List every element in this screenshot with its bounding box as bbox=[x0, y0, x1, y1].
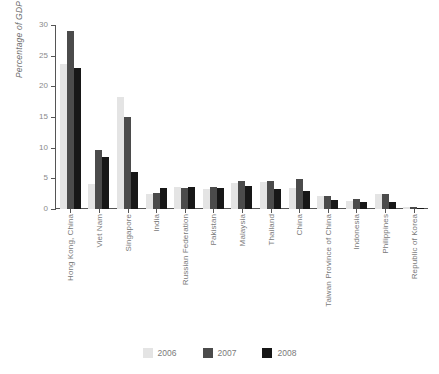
bar-group bbox=[199, 25, 228, 209]
legend-item[interactable]: 2008 bbox=[262, 348, 296, 358]
bar-group bbox=[113, 25, 142, 209]
bar bbox=[188, 187, 195, 209]
legend-item[interactable]: 2006 bbox=[143, 348, 177, 358]
legend-label: 2007 bbox=[218, 348, 237, 358]
y-tick-label: 10 bbox=[39, 143, 48, 152]
bar-group bbox=[256, 25, 285, 209]
bar bbox=[360, 202, 367, 209]
bar bbox=[289, 188, 296, 209]
bar-group bbox=[342, 25, 371, 209]
legend-swatch-icon bbox=[203, 348, 213, 358]
bar-groups bbox=[56, 25, 428, 209]
bar bbox=[267, 181, 274, 209]
y-tick-label: 15 bbox=[39, 112, 48, 121]
bar-group bbox=[371, 25, 400, 209]
bar bbox=[95, 150, 102, 209]
x-label-cell: China bbox=[285, 214, 314, 324]
x-label-cell: Philippines bbox=[371, 214, 400, 324]
x-label-cell: Thailand bbox=[256, 214, 285, 324]
bar bbox=[146, 194, 153, 209]
x-tick bbox=[299, 209, 300, 213]
plot-area: 051015202530 bbox=[56, 25, 428, 209]
x-label-cell: Malaysia bbox=[228, 214, 257, 324]
bar bbox=[67, 31, 74, 209]
bar bbox=[124, 117, 131, 209]
x-axis-labels: Hong Kong, ChinaViet NamSingaporeIndiaRu… bbox=[56, 214, 428, 324]
bar bbox=[375, 194, 382, 209]
x-tick bbox=[414, 209, 415, 213]
legend-swatch-icon bbox=[262, 348, 272, 358]
bar bbox=[382, 194, 389, 209]
bar bbox=[210, 187, 217, 209]
bar-group bbox=[142, 25, 171, 209]
bar bbox=[296, 179, 303, 209]
bar-group bbox=[285, 25, 314, 209]
x-label-cell: India bbox=[142, 214, 171, 324]
x-axis-label: China bbox=[295, 214, 304, 235]
x-axis-label: Russian Federation bbox=[180, 214, 189, 285]
x-tick bbox=[213, 209, 214, 213]
bar bbox=[403, 207, 410, 209]
x-label-cell: Singapore bbox=[113, 214, 142, 324]
bar bbox=[88, 184, 95, 209]
y-tick-label: 25 bbox=[39, 51, 48, 60]
x-label-cell: Republic of Korea bbox=[399, 214, 428, 324]
y-tick-label: 5 bbox=[44, 173, 48, 182]
x-axis-label: India bbox=[152, 214, 161, 232]
bar bbox=[331, 200, 338, 209]
bar-group bbox=[85, 25, 114, 209]
bar bbox=[60, 64, 67, 209]
bar-group bbox=[228, 25, 257, 209]
x-axis-label: Singapore bbox=[123, 214, 132, 251]
bar bbox=[174, 187, 181, 209]
x-tick bbox=[185, 209, 186, 213]
bar bbox=[102, 157, 109, 209]
legend-swatch-icon bbox=[143, 348, 153, 358]
x-label-cell: Indonesia bbox=[342, 214, 371, 324]
bar-group bbox=[313, 25, 342, 209]
x-tick bbox=[156, 209, 157, 213]
x-axis-label: Viet Nam bbox=[94, 214, 103, 248]
x-axis-label: Hong Kong, China bbox=[66, 214, 75, 281]
bar bbox=[238, 181, 245, 209]
y-tick-label: 0 bbox=[44, 204, 48, 213]
legend-item[interactable]: 2007 bbox=[203, 348, 237, 358]
y-tick-label: 20 bbox=[39, 81, 48, 90]
x-label-cell: Pakistan bbox=[199, 214, 228, 324]
x-axis-label: Taiwan Province of China bbox=[323, 214, 332, 307]
bar bbox=[245, 186, 252, 209]
bar bbox=[274, 189, 281, 209]
bar bbox=[346, 201, 353, 209]
x-label-cell: Viet Nam bbox=[85, 214, 114, 324]
bar bbox=[131, 172, 138, 209]
bar bbox=[117, 97, 124, 209]
x-label-cell: Russian Federation bbox=[170, 214, 199, 324]
bar bbox=[231, 183, 238, 209]
x-label-cell: Taiwan Province of China bbox=[313, 214, 342, 324]
bar bbox=[153, 193, 160, 209]
bar bbox=[181, 188, 188, 209]
bar bbox=[203, 189, 210, 209]
bar-group bbox=[399, 25, 428, 209]
chart-legend: 200620072008 bbox=[0, 348, 439, 358]
x-tick bbox=[271, 209, 272, 213]
bar bbox=[74, 68, 81, 209]
x-axis-label: Pakistan bbox=[209, 214, 218, 245]
y-axis-title: Percentage of GDP bbox=[14, 0, 24, 78]
bar bbox=[217, 188, 224, 209]
x-tick bbox=[385, 209, 386, 213]
x-axis-label: Indonesia bbox=[352, 214, 361, 250]
bar-chart: Percentage of GDP 051015202530 Hong Kong… bbox=[0, 0, 439, 374]
y-tick-label: 30 bbox=[39, 20, 48, 29]
bar bbox=[389, 202, 396, 209]
x-tick bbox=[99, 209, 100, 213]
x-axis-label: Republic of Korea bbox=[409, 214, 418, 279]
bar bbox=[303, 191, 310, 209]
bar bbox=[317, 196, 324, 209]
x-axis-label: Thailand bbox=[266, 214, 275, 246]
x-label-cell: Hong Kong, China bbox=[56, 214, 85, 324]
bar bbox=[260, 182, 267, 209]
x-tick bbox=[242, 209, 243, 213]
bar bbox=[417, 208, 424, 209]
x-tick bbox=[128, 209, 129, 213]
